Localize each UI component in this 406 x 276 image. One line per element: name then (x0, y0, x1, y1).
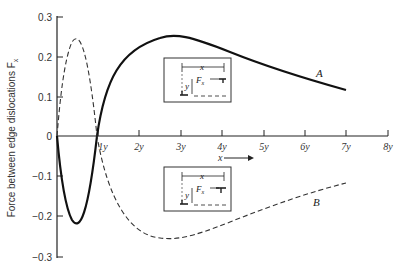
svg-text:5y: 5y (259, 141, 269, 152)
svg-text:y: y (184, 81, 189, 91)
svg-text:x: x (199, 62, 204, 72)
svg-text:6y: 6y (300, 141, 310, 152)
inset-diagram-a: x y Fx (164, 58, 231, 102)
svg-text:7y: 7y (341, 141, 351, 152)
y-tick-labels: 0.3 0.2 0.1 0 −0.1 −0.2 −0.3 (32, 12, 52, 263)
svg-text:2y: 2y (134, 141, 144, 152)
svg-text:3y: 3y (175, 141, 186, 152)
x-tick-labels: 1y 2y 3y 4y 5y 6y 7y 8y (98, 141, 393, 152)
svg-text:0.3: 0.3 (38, 12, 52, 23)
inset-diagram-b: x y Fx (164, 167, 231, 211)
svg-text:x: x (217, 152, 223, 163)
y-axis-label: Force between edge dislocations Fx (6, 58, 19, 217)
svg-text:−0.3: −0.3 (32, 252, 52, 263)
svg-text:−0.2: −0.2 (32, 211, 52, 222)
svg-text:0: 0 (46, 131, 52, 142)
svg-text:8y: 8y (383, 141, 393, 152)
svg-text:4y: 4y (217, 141, 227, 152)
curve-a-label: A (315, 67, 323, 79)
svg-text:−0.1: −0.1 (32, 171, 52, 182)
svg-text:x: x (199, 171, 204, 181)
svg-text:y: y (184, 190, 189, 200)
svg-text:0.1: 0.1 (38, 92, 52, 103)
x-ticks (98, 130, 388, 136)
x-direction-arrow: x (217, 152, 254, 163)
svg-text:0.2: 0.2 (38, 52, 52, 63)
curve-b-label: B (313, 196, 320, 208)
force-chart: Force between edge dislocations Fx 0.3 0… (0, 0, 406, 276)
